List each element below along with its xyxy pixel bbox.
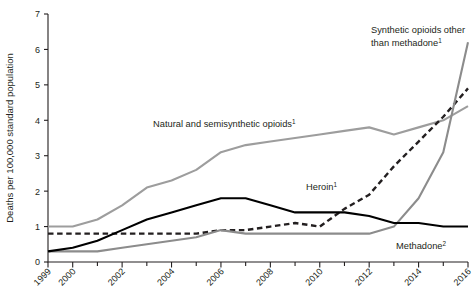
x-tick-label-2006: 2006 [205, 266, 226, 287]
y-axis-title: Deaths per 100,000 standard population [4, 53, 15, 223]
opioid-overdose-death-rates-chart: 01234567Deaths per 100,000 standard popu… [0, 0, 475, 300]
annotation-methadone-label: Methadone2 [396, 240, 447, 251]
x-tick-label-2012: 2012 [353, 266, 374, 287]
annotation-heroin-label: Heroin1 [306, 181, 337, 192]
y-tick-label-4: 4 [35, 116, 40, 126]
y-tick-label-2: 2 [35, 187, 40, 197]
x-tick-label-2014: 2014 [402, 266, 423, 287]
annotation-natural-label: Natural and semisynthetic opioids1 [153, 118, 296, 129]
chart-canvas: 01234567Deaths per 100,000 standard popu… [0, 0, 475, 300]
y-tick-label-0: 0 [35, 257, 40, 267]
x-tick-label-1999: 1999 [32, 266, 53, 287]
axis-frame [48, 14, 468, 262]
x-tick-label-2002: 2002 [106, 266, 127, 287]
annotation-synthetic-label-line2: than methadone1 [371, 37, 442, 48]
x-tick-label-2004: 2004 [155, 266, 176, 287]
x-tick-label-2010: 2010 [303, 266, 324, 287]
x-tick-label-2016: 2016 [452, 266, 473, 287]
y-tick-label-7: 7 [35, 9, 40, 19]
series-line-synthetic-opioids-other-than-methadone [48, 42, 468, 251]
annotation-synthetic-label-line1: Synthetic opioids other [371, 25, 465, 35]
y-tick-label-1: 1 [35, 222, 40, 232]
x-tick-label-2008: 2008 [254, 266, 275, 287]
y-tick-label-6: 6 [35, 45, 40, 55]
y-tick-label-3: 3 [35, 151, 40, 161]
x-tick-label-2000: 2000 [56, 266, 77, 287]
y-tick-label-5: 5 [35, 80, 40, 90]
